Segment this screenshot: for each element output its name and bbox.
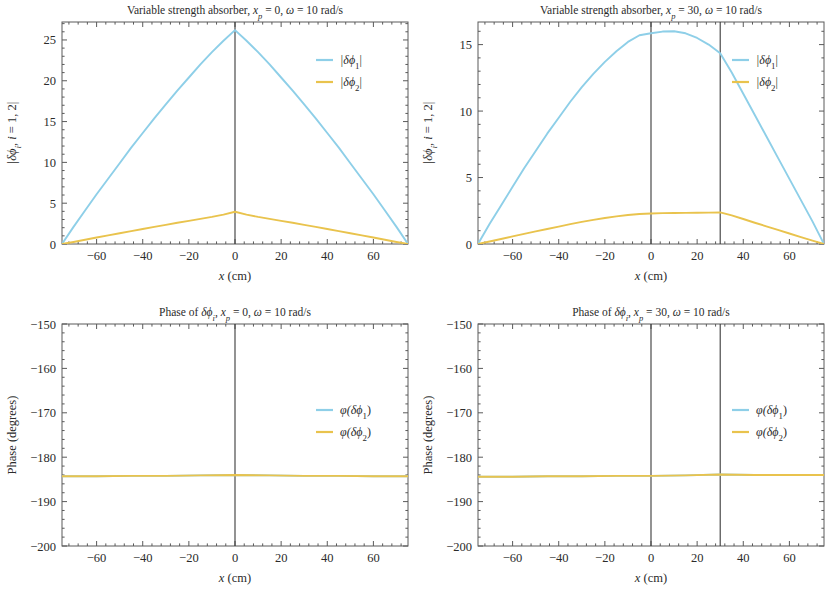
- svg-text:Variable strength absorber, xp: Variable strength absorber, xp = 0, ω = …: [127, 4, 344, 21]
- legend-label-1: |δϕ1|: [756, 53, 778, 71]
- svg-text:x (cm): x (cm): [218, 571, 251, 585]
- svg-text:40: 40: [321, 551, 334, 565]
- svg-text:0: 0: [466, 238, 472, 252]
- panel-title: Phase of δϕi, xp = 0, ω = 10 rad/s: [159, 306, 311, 323]
- legend-label-2: |δϕ2|: [340, 75, 362, 93]
- x-tick-labels: −60−40−200204060: [503, 551, 796, 565]
- svg-text:20: 20: [44, 74, 57, 88]
- y-axis-label: Phase (degrees): [5, 396, 19, 475]
- legend-label-2: φ(δϕ2): [756, 425, 787, 443]
- svg-text:−150: −150: [30, 318, 56, 332]
- y-tick-labels: −200−190−180−170−160−150: [30, 318, 56, 554]
- svg-text:−160: −160: [30, 362, 56, 376]
- plot-panel-top-right: Variable strength absorber, xp = 30, ω =…: [416, 0, 831, 302]
- svg-text:0: 0: [648, 249, 654, 263]
- svg-text:−180: −180: [446, 451, 472, 465]
- svg-text:10: 10: [460, 105, 473, 119]
- y-axis-label: |δϕi, i = 1, 2|: [5, 102, 23, 165]
- svg-text:60: 60: [367, 551, 380, 565]
- x-tick-labels: −60−40−200204060: [503, 249, 796, 263]
- y-axis-label: Phase (degrees): [421, 396, 435, 475]
- svg-text:40: 40: [321, 249, 334, 263]
- x-axis-label: x (cm): [218, 571, 251, 585]
- svg-text:x (cm): x (cm): [218, 269, 251, 283]
- svg-text:−190: −190: [446, 495, 472, 509]
- svg-text:−20: −20: [595, 551, 615, 565]
- svg-text:40: 40: [737, 551, 750, 565]
- svg-text:−170: −170: [446, 406, 472, 420]
- svg-text:20: 20: [275, 249, 288, 263]
- panel-title: Variable strength absorber, xp = 30, ω =…: [540, 4, 762, 21]
- svg-text:−150: −150: [446, 318, 472, 332]
- svg-text:20: 20: [275, 551, 288, 565]
- svg-text:20: 20: [691, 551, 704, 565]
- svg-text:0: 0: [232, 551, 238, 565]
- panel-title: Phase of δϕi, xp = 30, ω = 10 rad/s: [572, 306, 730, 323]
- x-tick-labels: −60−40−200204060: [87, 249, 380, 263]
- svg-text:Phase of δϕi, xp = 30, ω = 10: Phase of δϕi, xp = 30, ω = 10 rad/s: [572, 306, 730, 323]
- plot-panel-bottom-left: Phase of δϕi, xp = 0, ω = 10 rad/s−60−40…: [0, 302, 415, 603]
- x-tick-labels: −60−40−200204060: [87, 551, 380, 565]
- svg-text:−180: −180: [30, 451, 56, 465]
- legend: φ(δϕ1)φ(δϕ2): [316, 403, 371, 443]
- svg-text:−160: −160: [446, 362, 472, 376]
- svg-text:60: 60: [783, 249, 796, 263]
- svg-text:−40: −40: [133, 249, 153, 263]
- panel-title: Variable strength absorber, xp = 0, ω = …: [127, 4, 344, 21]
- svg-text:−40: −40: [133, 551, 153, 565]
- svg-text:Phase of δϕi, xp = 0, ω = 10 r: Phase of δϕi, xp = 0, ω = 10 rad/s: [159, 306, 311, 323]
- vertical-marker-lines: [651, 22, 720, 244]
- svg-text:−40: −40: [549, 249, 569, 263]
- y-tick-labels: 051015: [460, 38, 473, 251]
- svg-text:Variable strength absorber, xp: Variable strength absorber, xp = 30, ω =…: [540, 4, 762, 21]
- svg-text:−60: −60: [87, 551, 107, 565]
- legend-label-1: φ(δϕ1): [340, 403, 371, 421]
- svg-text:−60: −60: [503, 249, 523, 263]
- y-tick-labels: 0510152025: [44, 33, 57, 251]
- legend: φ(δϕ1)φ(δϕ2): [732, 403, 787, 443]
- svg-text:−60: −60: [503, 551, 523, 565]
- svg-text:−200: −200: [30, 540, 56, 554]
- x-axis-label: x (cm): [218, 269, 251, 283]
- svg-text:Phase (degrees): Phase (degrees): [5, 396, 19, 475]
- svg-text:15: 15: [44, 115, 57, 129]
- svg-text:0: 0: [50, 238, 56, 252]
- plot-panel-bottom-right: Phase of δϕi, xp = 30, ω = 10 rad/s−60−4…: [416, 302, 831, 603]
- legend-label-1: φ(δϕ1): [756, 403, 787, 421]
- svg-text:−40: −40: [549, 551, 569, 565]
- plot-panel-top-left: Variable strength absorber, xp = 0, ω = …: [0, 0, 415, 302]
- svg-text:60: 60: [783, 551, 796, 565]
- legend-label-2: |δϕ2|: [756, 75, 778, 93]
- svg-text:40: 40: [737, 249, 750, 263]
- svg-text:|δϕi, i = 1, 2|: |δϕi, i = 1, 2|: [421, 102, 439, 165]
- legend-label-1: |δϕ1|: [340, 53, 362, 71]
- svg-text:10: 10: [44, 156, 57, 170]
- svg-text:−190: −190: [30, 495, 56, 509]
- svg-text:−60: −60: [87, 249, 107, 263]
- svg-text:15: 15: [460, 38, 473, 52]
- svg-text:20: 20: [691, 249, 704, 263]
- y-tick-labels: −200−190−180−170−160−150: [446, 318, 472, 554]
- svg-text:−200: −200: [446, 540, 472, 554]
- svg-text:|δϕi, i = 1, 2|: |δϕi, i = 1, 2|: [5, 102, 23, 165]
- svg-text:−170: −170: [30, 406, 56, 420]
- svg-text:Phase (degrees): Phase (degrees): [421, 396, 435, 475]
- svg-text:0: 0: [232, 249, 238, 263]
- svg-text:25: 25: [44, 33, 57, 47]
- svg-text:x (cm): x (cm): [634, 269, 667, 283]
- legend-label-2: φ(δϕ2): [340, 425, 371, 443]
- legend: |δϕ1||δϕ2|: [316, 53, 362, 93]
- figure-canvas: Variable strength absorber, xp = 0, ω = …: [0, 0, 831, 603]
- x-axis-label: x (cm): [634, 269, 667, 283]
- svg-text:0: 0: [648, 551, 654, 565]
- y-axis-label: |δϕi, i = 1, 2|: [421, 102, 439, 165]
- svg-text:−20: −20: [179, 249, 199, 263]
- svg-text:−20: −20: [179, 551, 199, 565]
- svg-text:5: 5: [466, 171, 472, 185]
- svg-text:x (cm): x (cm): [634, 571, 667, 585]
- svg-text:60: 60: [367, 249, 380, 263]
- svg-text:−20: −20: [595, 249, 615, 263]
- x-axis-label: x (cm): [634, 571, 667, 585]
- vertical-marker-lines: [651, 324, 720, 546]
- svg-text:5: 5: [50, 197, 56, 211]
